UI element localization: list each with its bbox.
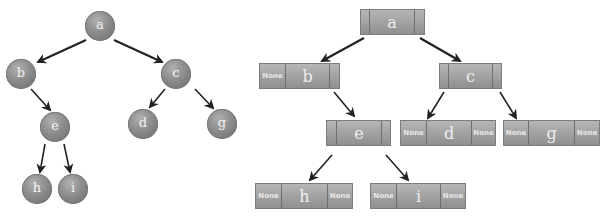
left-node-i: i	[58, 174, 88, 204]
right-pointer-cell	[414, 10, 424, 34]
right-node-b: None b	[259, 63, 340, 89]
right-node-c: c	[439, 63, 502, 89]
right-pointer-cell: None	[440, 184, 465, 208]
left-node-b: b	[6, 59, 36, 89]
left-edge-b-e	[31, 89, 50, 110]
node-value: i	[397, 184, 440, 208]
left-pointer-cell	[361, 10, 370, 34]
right-pointer-cell	[381, 121, 390, 145]
left-edge-c-g	[195, 89, 213, 108]
right-edge-c-d	[428, 92, 444, 118]
right-edge-c-g	[500, 92, 516, 118]
right-pointer-cell	[329, 64, 339, 88]
left-node-g: g	[207, 109, 237, 139]
left-pointer-cell	[327, 121, 337, 145]
left-pointer-cell	[440, 64, 449, 88]
node-value: c	[449, 64, 492, 88]
left-edge-a-b	[38, 40, 86, 62]
right-edge-e-h	[310, 155, 332, 180]
right-pointer-cell: None	[327, 184, 352, 208]
right-edge-e-i	[386, 155, 408, 180]
right-node-i: None i None	[370, 183, 466, 209]
node-value: g	[529, 121, 574, 145]
right-pointer-cell: None	[574, 121, 599, 145]
left-node-c: c	[161, 59, 191, 89]
node-value: h	[282, 184, 327, 208]
left-pointer-cell: None	[371, 184, 397, 208]
left-node-d: d	[128, 109, 158, 139]
node-value: b	[286, 64, 329, 88]
left-node-a: a	[85, 11, 115, 41]
right-node-g: None g None	[503, 120, 600, 146]
left-edge-a-c	[114, 40, 162, 62]
right-edge-a-c	[420, 38, 460, 61]
right-node-a: a	[360, 9, 425, 35]
left-pointer-cell: None	[504, 121, 529, 145]
right-pointer-cell: None	[471, 121, 495, 145]
left-pointer-cell: None	[401, 121, 427, 145]
node-value: e	[337, 121, 381, 145]
left-node-e: e	[40, 112, 70, 142]
node-value: d	[427, 121, 471, 145]
left-pointer-cell: None	[256, 184, 282, 208]
left-pointer-cell: None	[260, 64, 286, 88]
left-edge-e-h	[40, 144, 45, 172]
right-node-d: None d None	[400, 120, 496, 146]
left-edge-e-i	[64, 144, 70, 172]
right-node-h: None h None	[255, 183, 353, 209]
left-node-h: h	[22, 174, 52, 204]
right-pointer-cell	[492, 64, 501, 88]
node-value: a	[370, 10, 414, 34]
left-edge-c-d	[150, 89, 165, 107]
right-edge-b-e	[334, 92, 354, 116]
right-edge-a-b	[322, 38, 364, 61]
right-node-e: e	[326, 120, 391, 146]
